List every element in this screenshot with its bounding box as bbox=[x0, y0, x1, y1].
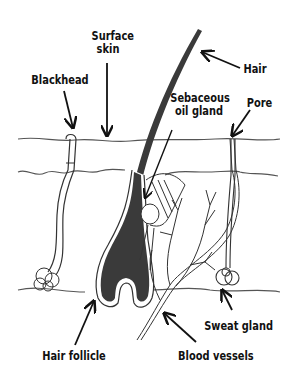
label-hair-follicle: Hair follicle bbox=[41, 350, 107, 363]
label-hair: Hair bbox=[243, 63, 268, 76]
blood-vessels bbox=[137, 139, 239, 340]
sebaceous-line2: oil gland bbox=[170, 105, 227, 118]
label-sebaceous-oil-gland: Sebaceous oil gland bbox=[170, 92, 227, 118]
right-sweat-duct bbox=[216, 139, 239, 285]
label-pore: Pore bbox=[247, 97, 272, 110]
label-blood-vessels: Blood vessels bbox=[178, 350, 252, 363]
dermis-line bbox=[18, 169, 125, 174]
surface-skin-line2: skin bbox=[92, 43, 125, 56]
left-sweat-gland bbox=[34, 268, 59, 291]
dermis-line-right bbox=[165, 171, 278, 176]
label-sweat-gland: Sweat gland bbox=[204, 320, 270, 333]
label-surface-skin: Surface skin bbox=[92, 30, 125, 56]
blackhead-duct bbox=[56, 135, 76, 276]
label-blackhead: Blackhead bbox=[31, 74, 88, 87]
